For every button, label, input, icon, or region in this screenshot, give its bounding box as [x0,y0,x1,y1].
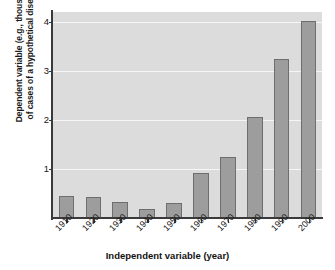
x-tick-label-1960: 1960 [188,212,209,233]
x-axis-title: Independent variable (year) [0,250,335,261]
chart-figure: Dependent variable (e.g., thousands of c… [0,0,335,270]
x-tick-label-2000: 2000 [296,212,317,233]
x-tick-label-1910: 1910 [53,212,74,233]
x-tick-label-1950: 1950 [161,212,182,233]
x-tick-label-1990: 1990 [269,212,290,233]
x-tick-label-1940: 1940 [134,212,155,233]
x-axis-ticks: 1910192019301940195019601970198019902000 [0,0,335,270]
x-tick-label-1980: 1980 [242,212,263,233]
x-tick-label-1930: 1930 [107,212,128,233]
x-tick-label-1970: 1970 [215,212,236,233]
x-tick-label-1920: 1920 [80,212,101,233]
